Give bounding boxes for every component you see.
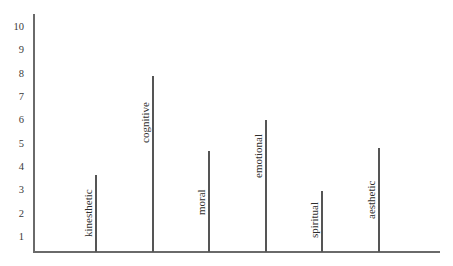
bar-moral (208, 151, 210, 252)
y-tick-label: 1 (2, 231, 24, 243)
y-tick-label: 9 (2, 44, 24, 56)
bar-emotional (265, 120, 267, 252)
bar-aesthetic (378, 148, 380, 252)
bar-kinesthetic (95, 175, 97, 252)
y-tick-label: 4 (2, 161, 24, 173)
bar-label-kinesthetic: kinesthetic (82, 189, 94, 237)
bar-label-aesthetic: aesthetic (365, 181, 377, 219)
bar-label-spiritual: spiritual (308, 202, 320, 238)
bar-label-moral: moral (195, 189, 207, 215)
y-tick-label: 2 (2, 208, 24, 220)
y-tick-label: 7 (2, 91, 24, 103)
bar-cognitive (152, 76, 154, 252)
y-tick-label: 5 (2, 138, 24, 150)
y-tick-label: 3 (2, 184, 24, 196)
y-tick-label: 10 (2, 21, 24, 33)
y-tick-label: 6 (2, 114, 24, 126)
y-axis (33, 14, 35, 252)
bar-label-cognitive: cognitive (139, 102, 151, 143)
y-tick-label: 8 (2, 68, 24, 80)
bar-spiritual (321, 191, 323, 252)
bar-label-emotional: emotional (252, 134, 264, 178)
